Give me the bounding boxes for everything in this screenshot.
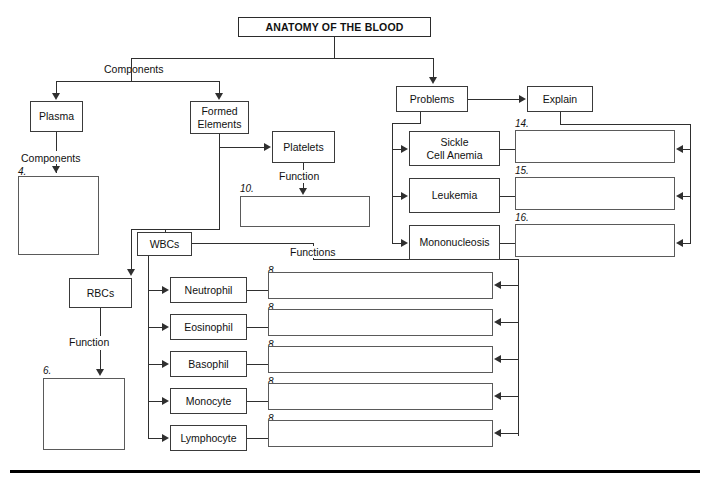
connector-wbc-spine [148, 256, 149, 438]
node-platelets: Platelets [272, 131, 335, 163]
blank-box-6[interactable] [43, 378, 125, 450]
arrowhead-wbc-type [162, 323, 169, 331]
label-function-platelets: Function [277, 170, 321, 182]
blank-box-wbc-function[interactable] [268, 346, 493, 373]
connector-formed-elements-spine [219, 134, 220, 229]
blank-number-problem: 15. [515, 165, 529, 176]
blank-box-wbc-function[interactable] [268, 272, 493, 299]
node-wbc-neutrophil: Neutrophil [170, 277, 247, 303]
arrowhead-formed-elements [215, 93, 223, 100]
arrowhead-wbc-type [162, 286, 169, 294]
connector-wbc-stub [148, 438, 162, 439]
node-formed-elements: Formed Elements [190, 101, 249, 134]
arrowhead-wbc-blank [494, 355, 501, 363]
label-function-rbcs: Function [67, 336, 111, 348]
arrowhead-problem-blank [676, 192, 683, 200]
node-rbcs: RBCs [69, 278, 132, 308]
connector-problems-drop [420, 112, 421, 123]
problem-name-line1: Leukemia [432, 189, 478, 201]
connector-functions-into-blank [501, 396, 519, 397]
node-wbc-lymphocyte: Lymphocyte [170, 425, 247, 451]
node-wbcs: WBCs [137, 232, 192, 256]
connector-to-problems [433, 58, 434, 78]
node-problem-leukemia: Leukemia [409, 178, 500, 213]
node-wbc-monocyte: Monocyte [170, 388, 247, 414]
connector-wbc-stub [148, 364, 162, 365]
connector-wbc-stub [148, 327, 162, 328]
arrowhead-wbc-blank [494, 318, 501, 326]
connector-to-plasma [56, 81, 57, 93]
node-formed-elements-line1: Formed [201, 105, 237, 117]
node-problems: Problems [396, 86, 468, 112]
connector-rbcs-function [100, 308, 101, 336]
connector-problems-spine [392, 123, 393, 243]
node-wbc-basophil: Basophil [170, 351, 247, 377]
blank-number-problem: 16. [515, 212, 529, 223]
label-components-plasma: Components [21, 152, 81, 164]
arrowhead-wbc-type [162, 360, 169, 368]
connector-problem-stub [392, 196, 401, 197]
connector-problems-left [392, 123, 421, 124]
arrowhead-platelets-blank [299, 188, 307, 195]
connector-problem-stub [392, 243, 401, 244]
blank-box-problem-explain[interactable] [515, 130, 675, 163]
arrowhead-problem [401, 192, 408, 200]
connector-problems-explain [468, 99, 519, 100]
title-box: ANATOMY OF THE BLOOD [238, 17, 431, 37]
connector-to-platelets [219, 147, 264, 148]
connector-functions-into-blank [501, 433, 519, 434]
connector-problem-stub [392, 149, 401, 150]
problem-name-line2: Cell Anemia [426, 149, 482, 161]
blank-number-10: 10. [240, 183, 254, 194]
blank-box-wbc-function[interactable] [268, 383, 493, 410]
blank-box-4[interactable] [18, 176, 99, 255]
arrowhead-problem-blank [676, 145, 683, 153]
connector-wbc-to-blank [247, 327, 268, 328]
arrowhead-rbcs [127, 269, 135, 276]
arrowhead-wbc-type [162, 434, 169, 442]
worksheet-diagram: ANATOMY OF THE BLOOD Components Plasma F… [0, 0, 707, 481]
blank-box-problem-explain[interactable] [515, 177, 675, 210]
bottom-rule [10, 470, 700, 473]
connector-wbc-to-blank [247, 364, 268, 365]
arrowhead-problem-blank [676, 239, 683, 247]
arrowhead-problems [429, 77, 437, 84]
connector-explain-into-blank [683, 196, 691, 197]
blank-box-10[interactable] [240, 196, 370, 227]
label-components-top: Components [104, 63, 164, 75]
connector-wbc-stub [148, 401, 162, 402]
arrowhead-wbc-blank [494, 429, 501, 437]
arrowhead-wbc-type [162, 397, 169, 405]
connector-explain-into-blank [683, 243, 691, 244]
connector-wbc-to-blank [247, 290, 268, 291]
connector-components-split [56, 81, 219, 82]
connector-to-formed-elements [219, 81, 220, 93]
connector-explain-right [560, 124, 691, 125]
connector-title-stem [334, 37, 335, 58]
connector-formed-elements-bottom [131, 229, 220, 230]
connector-explain-vertical [690, 124, 691, 243]
node-wbc-eosinophil: Eosinophil [170, 314, 247, 340]
connector-wbc-to-blank [247, 438, 268, 439]
problem-name-line1: Sickle [440, 136, 468, 148]
arrowhead-rbcs-blank [96, 369, 104, 376]
arrowhead-explain [519, 95, 526, 103]
blank-box-wbc-function[interactable] [268, 420, 493, 447]
connector-wbc-to-blank [247, 401, 268, 402]
blank-box-wbc-function[interactable] [268, 309, 493, 336]
label-functions-wbcs: Functions [287, 246, 339, 258]
connector-problem-to-blank [500, 196, 515, 197]
node-problem-mononucleosis: Mononucleosis [409, 225, 500, 260]
arrowhead-wbc-blank [494, 392, 501, 400]
connector-main-bar [131, 58, 434, 59]
connector-problem-to-blank [500, 243, 515, 244]
connector-to-rbcs [131, 229, 132, 271]
arrowhead-plasma-blank [52, 166, 60, 173]
connector-functions-into-blank [501, 359, 519, 360]
arrowhead-plasma [52, 93, 60, 100]
blank-number-problem: 14. [515, 118, 529, 129]
connector-components-drop [131, 58, 132, 81]
node-plasma: Plasma [30, 101, 83, 132]
blank-box-problem-explain[interactable] [515, 224, 675, 257]
connector-wbcs-functions [192, 243, 313, 244]
